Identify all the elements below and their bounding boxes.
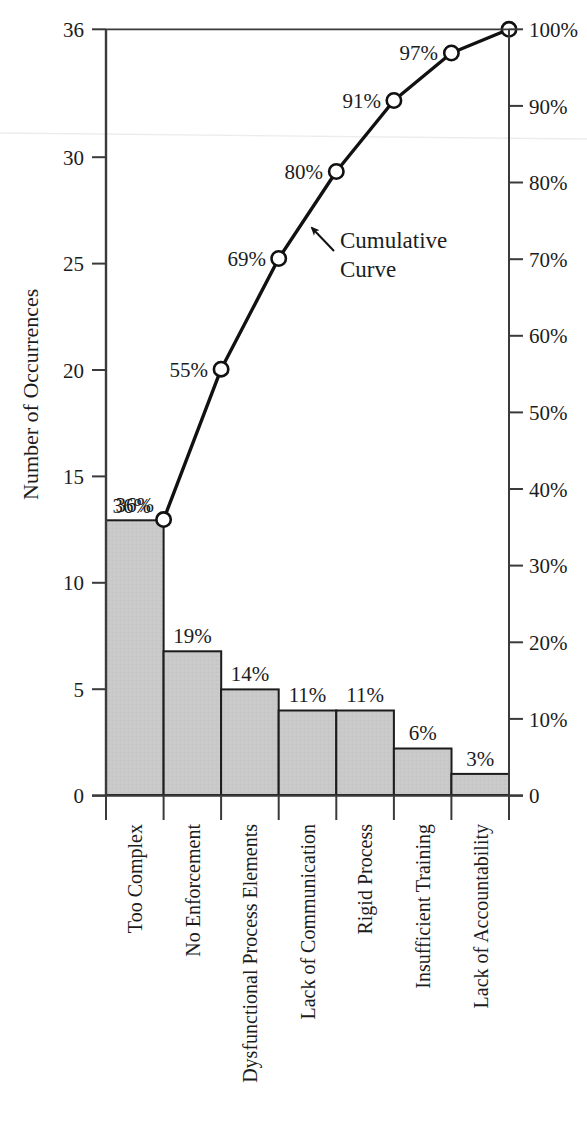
category-label-1: No Enforcement [182, 824, 204, 957]
bar-1 [164, 651, 222, 795]
right-axis-ticks [509, 29, 523, 795]
left-tick-label-15: 15 [63, 465, 84, 489]
right-tick-label-70: 70% [529, 248, 568, 272]
right-tick-label-0: 0 [529, 784, 540, 808]
pareto-chart: 36% 19% 14% 11% 11% 6% 3% 36% 55% 69% 80… [0, 0, 587, 1129]
right-tick-label-10: 10% [529, 708, 568, 732]
right-tick-label-50: 50% [529, 401, 568, 425]
left-tick-label-30: 30 [63, 146, 84, 170]
curve-marker-1 [214, 362, 228, 376]
scan-artifact-line [0, 133, 587, 139]
right-tick-label-20: 20% [529, 631, 568, 655]
category-label-3: Lack of Communication [297, 824, 319, 1020]
left-tick-label-20: 20 [63, 359, 84, 383]
category-label-5: Insufficient Training [412, 824, 435, 989]
bar-percent-label-6: 3% [466, 747, 494, 771]
curve-marker-3 [329, 164, 343, 178]
curve-marker-2 [272, 251, 286, 265]
bar-3 [279, 711, 337, 796]
cumulative-label-0: 36% [113, 494, 152, 518]
cumulative-curve-annotation-line1: Cumulative [340, 228, 447, 253]
left-tick-label-25: 25 [63, 252, 84, 276]
bar-percent-label-1: 19% [173, 624, 212, 648]
bar-percent-label-4: 11% [346, 683, 384, 707]
left-tick-label-10: 10 [63, 571, 84, 595]
curve-marker-4 [387, 93, 401, 107]
left-tick-label-0: 0 [74, 784, 85, 808]
right-tick-label-40: 40% [529, 478, 568, 502]
right-tick-label-30: 30% [529, 554, 568, 578]
cumulative-label-2: 69% [228, 247, 267, 271]
bar-percent-label-3: 11% [289, 683, 327, 707]
right-tick-label-100: 100% [529, 18, 578, 42]
cumulative-label-1: 55% [170, 358, 209, 382]
cumulative-curve-line [164, 29, 509, 519]
right-tick-label-60: 60% [529, 324, 568, 348]
bar-percent-label-2: 14% [231, 662, 270, 686]
cumulative-curve-annotation-arrow [312, 228, 334, 251]
bar-2 [221, 689, 279, 795]
left-tick-label-36: 36 [63, 18, 84, 42]
curve-marker-0 [156, 512, 170, 526]
category-label-0: Too Complex [124, 824, 147, 933]
left-axis-ticks [92, 29, 106, 795]
category-label-2: Dysfunctional Process Elements [239, 824, 262, 1083]
left-tick-label-5: 5 [74, 678, 85, 702]
category-ticks [106, 796, 509, 820]
cumulative-curve-annotation-line2: Curve [340, 257, 396, 282]
chart-canvas: 36% 19% 14% 11% 11% 6% 3% 36% 55% 69% 80… [0, 0, 587, 1129]
bar-6 [451, 774, 509, 795]
right-tick-label-80: 80% [529, 171, 568, 195]
category-label-4: Rigid Process [354, 824, 377, 935]
right-tick-label-90: 90% [529, 95, 568, 119]
bar-5 [394, 749, 452, 796]
cumulative-label-3: 80% [285, 160, 324, 184]
bar-4 [336, 711, 394, 796]
y-axis-title: Number of Occurrences [18, 289, 43, 500]
bar-0 [106, 520, 164, 795]
curve-marker-5 [444, 46, 458, 60]
category-label-6: Lack of Accountability [470, 824, 493, 1008]
cumulative-curve-markers [156, 22, 516, 527]
bar-percent-label-5: 6% [409, 721, 437, 745]
cumulative-label-5: 97% [400, 41, 439, 65]
cumulative-label-4: 91% [343, 89, 382, 113]
bars-group [106, 520, 509, 795]
